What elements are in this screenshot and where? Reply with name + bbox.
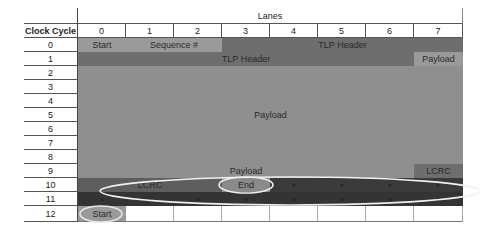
idle-x-mark: x [245, 196, 248, 202]
idle-segment [78, 192, 463, 206]
sequence-number-segment: Sequence # [126, 38, 222, 52]
idle-x-mark: x [293, 196, 296, 202]
lcrc-segment: LCRC [414, 164, 463, 178]
clock-cycle-label: 8 [24, 150, 78, 164]
idle-x-mark: x [149, 196, 152, 202]
idle-x-mark: x [101, 196, 104, 202]
empty-cell [222, 206, 270, 222]
clock-cycle-label: 6 [24, 122, 78, 136]
payload-block: Payload [78, 66, 463, 164]
clock-cycle-label: 2 [24, 66, 78, 80]
lcrc-segment: LCRC [78, 178, 222, 192]
idle-x-mark: x [389, 196, 392, 202]
idle-x-mark: x [437, 196, 440, 202]
clock-cycle-header: Clock Cycle [24, 24, 78, 38]
lane-header-7: 7 [414, 24, 463, 38]
empty-cell [270, 206, 318, 222]
clock-cycle-label: 9 [24, 164, 78, 178]
empty-cell [318, 206, 366, 222]
idle-x-mark: x [293, 182, 296, 188]
lane-header-4: 4 [270, 24, 318, 38]
empty-cell [126, 206, 174, 222]
lane-header-1: 1 [126, 24, 174, 38]
clock-cycle-label: 1 [24, 52, 78, 66]
clock-cycle-label: 10 [24, 178, 78, 192]
empty-cell [366, 206, 414, 222]
idle-x-mark: x [197, 196, 200, 202]
lane-header-5: 5 [318, 24, 366, 38]
start-symbol-segment: Start [78, 38, 126, 52]
clock-cycle-label: 5 [24, 108, 78, 122]
idle-x-mark: x [389, 182, 392, 188]
clock-cycle-label: 11 [24, 192, 78, 206]
tlp-header-segment: TLP Header [222, 38, 463, 52]
empty-cell [414, 206, 463, 222]
lane-header-3: 3 [222, 24, 270, 38]
lane-header-0: 0 [78, 24, 126, 38]
end-symbol-segment: End [222, 178, 270, 192]
lane-header-6: 6 [366, 24, 414, 38]
tlp-lane-table: Lanes Clock Cycle 0 1 2 3 4 5 6 7 0 1 2 … [24, 8, 463, 222]
idle-segment [270, 178, 463, 192]
start-symbol-segment: Start [78, 206, 126, 222]
clock-cycle-label: 3 [24, 80, 78, 94]
clock-cycle-label: 7 [24, 136, 78, 150]
clock-cycle-label: 12 [24, 206, 78, 222]
payload-segment: Payload [414, 52, 463, 66]
clock-cycle-label: 0 [24, 38, 78, 52]
idle-x-mark: x [437, 182, 440, 188]
lanes-title: Lanes [78, 8, 463, 24]
empty-cell [174, 206, 222, 222]
idle-x-mark: x [341, 196, 344, 202]
payload-segment: Payload [78, 164, 414, 178]
clock-cycle-label: 4 [24, 94, 78, 108]
corner-cell [24, 8, 78, 24]
lane-header-2: 2 [174, 24, 222, 38]
tlp-header-segment: TLP Header [78, 52, 414, 66]
idle-x-mark: x [341, 182, 344, 188]
